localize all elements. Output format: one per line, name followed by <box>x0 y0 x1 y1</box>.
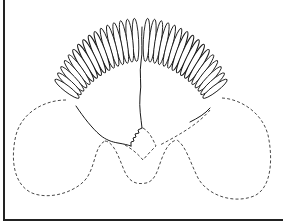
left-dashed-lobe <box>13 100 105 196</box>
lower-left-body-edge <box>76 106 131 146</box>
specimen-figure <box>0 0 283 223</box>
central-suture <box>140 27 142 128</box>
right-dashed-lobe <box>177 98 271 199</box>
specimen-drawing <box>0 0 283 223</box>
notched-suture-base <box>131 128 142 146</box>
inner-dashed-v <box>125 128 156 160</box>
lower-right-body-edge <box>190 108 210 122</box>
center-dashed-lobe <box>105 140 177 184</box>
dashed-outlines <box>13 98 270 199</box>
